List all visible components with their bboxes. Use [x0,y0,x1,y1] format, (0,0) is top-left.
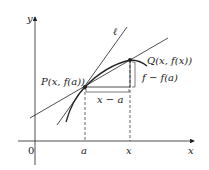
x-axis-label: x [188,145,194,156]
tangent-label: ℓ [113,26,117,37]
run-brace [86,89,129,92]
origin-label: 0 [28,145,34,156]
run-label: x − a [97,94,123,105]
point-p-label: P(x, f(a)) [40,76,85,87]
rise-label: f − f(a) [141,72,178,83]
point-q-label: Q(x, f(x)) [147,55,192,66]
rise-brace [132,62,135,87]
tick-a-label: a [81,145,87,156]
point-q [128,58,132,62]
tick-x-label: x [126,145,132,156]
diagram-canvas: y x 0 a x ℓ x − a f − f(a) P(x, f(a)) Q(… [0,0,209,170]
y-axis-label: y [26,13,33,24]
secant-tangent-diagram: y x 0 a x ℓ x − a f − f(a) P(x, f(a)) Q(… [0,0,209,170]
